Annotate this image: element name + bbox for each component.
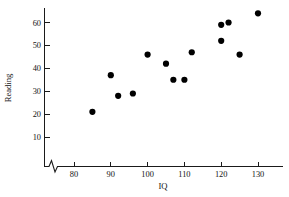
data-point [145, 51, 151, 57]
data-points-group [89, 10, 261, 115]
data-point [255, 10, 261, 16]
x-tick-label: 120 [215, 170, 228, 179]
data-point [115, 93, 121, 99]
data-point [189, 49, 195, 55]
y-tick-label: 30 [33, 87, 41, 96]
x-tick-label: 80 [70, 170, 78, 179]
y-tick-label: 50 [33, 41, 41, 50]
data-point [163, 61, 169, 67]
data-point [108, 72, 114, 78]
x-tick-label: 90 [107, 170, 115, 179]
y-tick-label: 20 [33, 110, 41, 119]
data-point [181, 77, 187, 83]
x-tick-label: 100 [141, 170, 154, 179]
plot-canvas: 8090100110120130 102030405060 IQ Reading [0, 0, 289, 197]
data-point [237, 51, 243, 57]
data-point [218, 22, 224, 28]
x-axis-break-zigzag [46, 161, 62, 173]
y-axis-title: Reading [3, 73, 13, 102]
data-point [218, 38, 224, 44]
y-tick-label: 40 [33, 64, 41, 73]
x-axis-ticks: 8090100110120130 [70, 162, 264, 180]
y-axis-ticks: 102030405060 [33, 19, 50, 143]
y-tick-label: 10 [33, 133, 41, 142]
x-tick-label: 130 [252, 170, 265, 179]
data-point [170, 77, 176, 83]
x-tick-label: 110 [178, 170, 190, 179]
scatter-plot-figure: 8090100110120130 102030405060 IQ Reading [0, 0, 289, 197]
axes [45, 8, 284, 172]
data-point [130, 90, 136, 96]
y-tick-label: 60 [33, 19, 41, 28]
data-point [225, 19, 231, 25]
x-axis-title: IQ [158, 181, 168, 191]
data-point [89, 109, 95, 115]
